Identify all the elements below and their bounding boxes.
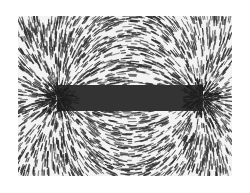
field-lines-illustration [18,16,232,176]
magnetic-field-photo [18,16,232,176]
